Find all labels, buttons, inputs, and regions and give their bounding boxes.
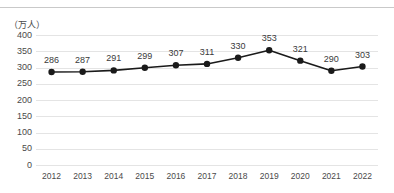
x-axis-tick: 2018 <box>221 172 255 181</box>
y-axis-tick: 50 <box>2 144 32 153</box>
x-axis-tick: 2017 <box>190 172 224 181</box>
data-point-label: 299 <box>129 52 161 61</box>
data-point-label: 287 <box>67 56 99 65</box>
x-axis-tick-labels: 2012201320142015201620172018201920202021… <box>36 172 378 184</box>
data-point <box>79 69 85 75</box>
x-axis-tick: 2014 <box>97 172 131 181</box>
x-axis-tick: 2022 <box>345 172 379 181</box>
data-point <box>328 68 334 74</box>
data-point-label: 330 <box>222 42 254 51</box>
plot-area: 286287291299307311330353321290303 <box>36 35 378 165</box>
data-point-label: 311 <box>191 48 223 57</box>
line-chart: （万人） 400350300250200150100500 2862872912… <box>0 8 394 193</box>
y-axis-tick: 0 <box>2 161 32 170</box>
y-axis-tick: 100 <box>2 128 32 137</box>
y-axis-tick: 300 <box>2 63 32 72</box>
gridline <box>36 165 378 166</box>
x-axis-tick: 2012 <box>35 172 69 181</box>
x-axis-tick: 2016 <box>159 172 193 181</box>
data-point-label: 307 <box>160 49 192 58</box>
x-axis-tick: 2021 <box>314 172 348 181</box>
x-axis-tick: 2013 <box>66 172 100 181</box>
data-point-label: 286 <box>36 56 68 65</box>
y-axis-tick: 350 <box>2 47 32 56</box>
data-point-label: 303 <box>346 51 378 60</box>
data-point <box>359 63 365 69</box>
data-point-label: 321 <box>284 45 316 54</box>
y-axis-tick: 250 <box>2 79 32 88</box>
data-point <box>204 61 210 67</box>
data-point-label: 291 <box>98 54 130 63</box>
y-axis-tick: 400 <box>2 31 32 40</box>
x-axis-tick: 2019 <box>252 172 286 181</box>
data-point <box>173 62 179 68</box>
y-axis-tick: 200 <box>2 96 32 105</box>
data-point <box>142 65 148 71</box>
x-axis-tick: 2015 <box>128 172 162 181</box>
y-axis-tick: 150 <box>2 112 32 121</box>
data-point <box>297 57 303 63</box>
data-point <box>235 55 241 61</box>
x-axis-tick: 2020 <box>283 172 317 181</box>
data-point-label: 353 <box>253 34 285 43</box>
y-axis-tick-labels: 400350300250200150100500 <box>0 35 32 165</box>
data-point <box>266 47 272 53</box>
data-point-label: 290 <box>315 55 347 64</box>
data-point <box>48 69 54 75</box>
data-point <box>111 67 117 73</box>
